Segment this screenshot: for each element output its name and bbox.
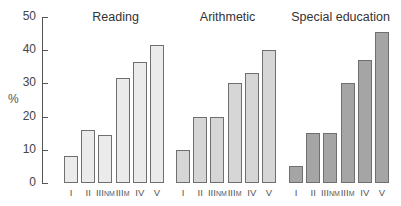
y-tick-label: 40: [16, 42, 36, 56]
bar: [98, 135, 112, 183]
bar: [210, 117, 224, 183]
y-tick: [42, 117, 48, 118]
bar: [375, 32, 389, 183]
y-tick: [42, 183, 48, 184]
bar: [64, 156, 78, 183]
bar: [323, 133, 337, 183]
bar: [150, 45, 164, 183]
y-tick: [42, 50, 48, 51]
x-tick-label: V: [371, 187, 393, 198]
panel-title: Reading: [54, 10, 177, 24]
bar: [245, 73, 259, 183]
panel-title: Special education: [279, 10, 401, 24]
y-axis-label: %: [8, 92, 19, 106]
bar: [228, 83, 242, 183]
y-tick: [42, 17, 48, 18]
x-tick-label: V: [146, 187, 168, 198]
panel-title: Arithmetic: [166, 10, 289, 24]
y-tick-label: 10: [16, 142, 36, 156]
y-tick-label: 20: [16, 109, 36, 123]
y-axis: [42, 17, 43, 184]
y-tick-label: 30: [16, 75, 36, 89]
y-tick-label: 0: [16, 175, 36, 189]
bar: [81, 130, 95, 183]
bar: [358, 60, 372, 183]
y-tick: [42, 83, 48, 84]
x-tick-label: V: [258, 187, 280, 198]
bar: [262, 50, 276, 183]
bar: [193, 117, 207, 183]
bar: [306, 133, 320, 183]
bar: [341, 83, 355, 183]
y-tick: [42, 150, 48, 151]
y-tick-label: 50: [16, 9, 36, 23]
bar: [116, 78, 130, 183]
bar: [133, 62, 147, 183]
bar: [176, 150, 190, 183]
bar: [289, 166, 303, 183]
